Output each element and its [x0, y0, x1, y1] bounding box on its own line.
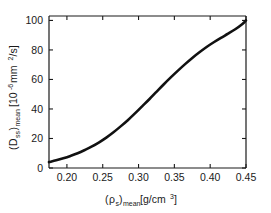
y-tick-label: 0 — [37, 162, 43, 174]
x-tick-label: 0.40 — [200, 171, 221, 183]
x-axis-title-close-paren: ) — [119, 193, 123, 205]
chart-canvas: 0.200.250.300.350.400.45 020406080100 ( … — [0, 0, 271, 213]
x-axis-title-units-close: ] — [174, 193, 177, 205]
y-axis-title-bracket-open: [10 — [7, 92, 19, 107]
y-axis-title-d: D — [7, 138, 19, 146]
figure-container: 0.200.250.300.350.400.45 020406080100 ( … — [0, 0, 271, 213]
x-tick-label: 0.45 — [236, 171, 257, 183]
y-tick-label: 40 — [31, 103, 43, 115]
y-tick-label: 60 — [31, 73, 43, 85]
y-axis-title-units: mm — [7, 65, 19, 83]
x-tick-label: 0.20 — [57, 171, 78, 183]
y-axis-title-exponent: -6 — [7, 84, 14, 90]
y-tick-label: 100 — [25, 14, 43, 26]
y-axis-title-close-paren: ) — [7, 127, 19, 131]
x-tick-label: 0.25 — [93, 171, 114, 183]
y-tick-label: 80 — [31, 44, 43, 56]
y-axis-title-d-subscript: ss — [14, 131, 21, 139]
x-tick-label: 0.30 — [128, 171, 149, 183]
x-axis-title-rho: ρ — [109, 193, 115, 205]
x-axis-title-mean-subscript: mean — [123, 200, 141, 207]
y-axis-title-mean-subscript: mean — [14, 109, 21, 127]
x-tick-label: 0.35 — [164, 171, 185, 183]
x-axis-title-units: [g/cm — [140, 193, 166, 205]
y-axis-title-units-tail: /s] — [7, 45, 19, 56]
y-tick-label: 20 — [31, 132, 43, 144]
